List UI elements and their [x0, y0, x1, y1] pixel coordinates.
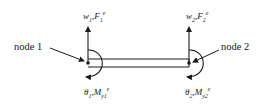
node-1-pointer-icon — [50, 48, 84, 61]
load-superscript: e — [107, 86, 110, 92]
beam-element-diagram: node 1 node 2 w1,F1e w2,F2e θ1,My1e θ2,M… — [0, 0, 264, 106]
force-1-label: w1,F1e — [83, 10, 105, 23]
beam — [88, 59, 189, 67]
diagram-graphics — [0, 0, 264, 106]
moment-1-label: θ1,My1e — [84, 86, 110, 99]
node-1-label: node 1 — [14, 42, 42, 53]
load-superscript: e — [206, 10, 209, 16]
moment-2-label: θ2,My2e — [185, 86, 211, 99]
node-2-label: node 2 — [221, 42, 249, 53]
load-subscript: 2 — [203, 17, 206, 23]
load-superscript: e — [103, 10, 106, 16]
load-subscript: y1 — [101, 93, 107, 99]
force-2-label: w2,F2e — [186, 10, 208, 23]
load-superscript: e — [208, 86, 211, 92]
load-subscript: y2 — [202, 93, 208, 99]
load-subscript: 1 — [100, 17, 103, 23]
